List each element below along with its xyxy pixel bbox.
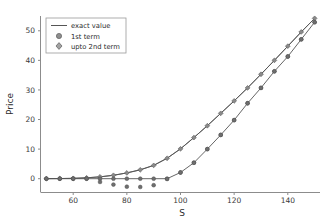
- data-point-1st-term: [125, 177, 129, 181]
- x-tick-label: 60: [68, 196, 78, 205]
- data-point-1st-term: [58, 177, 62, 181]
- data-point-1st-term: [192, 161, 196, 165]
- data-point-1st-term: [313, 20, 317, 24]
- data-point-1st-term: [286, 55, 290, 59]
- y-tick-label: 10: [25, 145, 35, 154]
- x-tick-label: 100: [173, 196, 188, 205]
- data-point-1st-term: [125, 185, 129, 189]
- legend-label-upto-2nd-term: upto 2nd term: [71, 43, 120, 51]
- data-point-1st-term: [138, 185, 142, 189]
- data-point-1st-term: [98, 180, 102, 184]
- legend-label-exact-value: exact value: [71, 22, 110, 30]
- y-tick-label: 20: [25, 115, 35, 124]
- x-tick-label: 120: [227, 196, 242, 205]
- data-point-upto-2nd-term: [151, 163, 156, 168]
- data-point-1st-term: [272, 69, 276, 73]
- data-point-upto-2nd-term: [138, 167, 143, 172]
- data-point-1st-term: [85, 177, 89, 181]
- x-axis-ticks: 6080100120140: [68, 192, 295, 205]
- data-point-1st-term: [232, 118, 236, 122]
- y-tick-label: 0: [30, 174, 35, 183]
- data-point-1st-term: [112, 183, 116, 187]
- y-tick-label: 40: [25, 56, 35, 65]
- y-axis-title: Price: [5, 93, 15, 115]
- x-tick-label: 80: [122, 196, 132, 205]
- data-point-1st-term: [246, 101, 250, 105]
- data-point-1st-term: [219, 133, 223, 137]
- data-point-upto-2nd-term: [124, 171, 129, 176]
- data-point-1st-term: [44, 177, 48, 181]
- data-point-1st-term: [205, 147, 209, 151]
- legend-label-1st-term: 1st term: [71, 33, 100, 41]
- data-point-1st-term: [112, 177, 116, 181]
- data-point-1st-term: [165, 177, 169, 181]
- y-tick-label: 30: [25, 86, 35, 95]
- data-point-1st-term: [71, 177, 75, 181]
- legend: exact value 1st term upto 2nd term: [46, 18, 126, 53]
- data-point-1st-term: [179, 171, 183, 175]
- x-axis-title: S: [179, 208, 185, 218]
- data-point-1st-term: [299, 37, 303, 41]
- chart-figure: 01020304050 6080100120140 Price S exact …: [0, 0, 326, 222]
- y-axis-ticks: 01020304050: [25, 26, 41, 183]
- data-point-1st-term: [138, 177, 142, 181]
- data-point-1st-term: [152, 183, 156, 187]
- x-tick-label: 140: [281, 196, 296, 205]
- data-point-1st-term: [259, 86, 263, 90]
- data-point-1st-term: [152, 177, 156, 181]
- plot-canvas: 01020304050 6080100120140 Price S exact …: [0, 0, 326, 222]
- y-tick-label: 50: [25, 26, 35, 35]
- legend-circle-marker: [56, 33, 61, 38]
